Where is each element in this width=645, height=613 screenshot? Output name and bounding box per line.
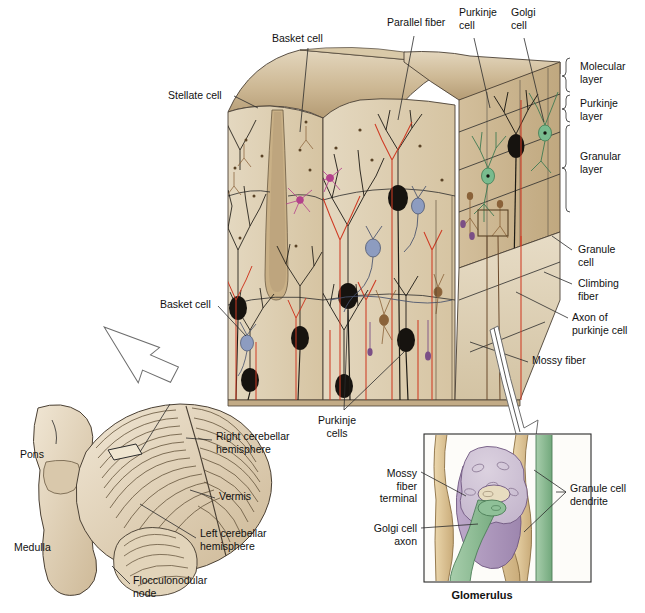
cerebellum-illustration bbox=[0, 0, 645, 613]
label-granular-layer: Granular layer bbox=[580, 150, 621, 175]
label-stellate-cell: Stellate cell bbox=[168, 89, 222, 102]
label-mossy-fiber-terminal: Mossy fiber terminal bbox=[337, 467, 417, 505]
label-golgi-cell-top: Golgi cell bbox=[511, 6, 536, 31]
purkinje-soma bbox=[229, 296, 247, 320]
label-medulla: Medulla bbox=[14, 541, 51, 554]
label-flocculonodular-node: Flocculonodular node bbox=[133, 574, 207, 599]
purkinje-soma bbox=[291, 326, 309, 350]
label-mossy-fiber: Mossy fiber bbox=[532, 354, 586, 367]
golgi-axon-cut-face bbox=[478, 500, 506, 516]
glomerulus-inset bbox=[421, 434, 591, 582]
figure-canvas: Stellate cell Basket cell Parallel fiber… bbox=[0, 0, 645, 613]
pons-bulge bbox=[43, 460, 80, 494]
cortex-face-middle bbox=[323, 99, 455, 400]
purkinje-soma bbox=[388, 185, 408, 211]
label-right-cerebellar-hemisphere: Right cerebellar hemisphere bbox=[216, 430, 290, 455]
label-granule-cell: Granule cell bbox=[578, 243, 615, 268]
cortex-block bbox=[220, 47, 560, 406]
label-left-cerebellar-hemisphere: Left cerebellar hemisphere bbox=[200, 527, 267, 552]
caption-glomerulus: Glomerulus bbox=[437, 589, 527, 602]
label-purkinje-layer: Purkinje layer bbox=[580, 97, 618, 122]
label-axon-of-purkinje-cell: Axon of purkinje cell bbox=[572, 311, 627, 336]
basket-cells-left bbox=[241, 335, 254, 351]
label-granule-cell-dendrite: Granule cell dendrite bbox=[570, 482, 626, 507]
label-golgi-cell-axon: Golgi cell axon bbox=[337, 522, 417, 547]
label-parallel-fiber: Parallel fiber bbox=[387, 16, 445, 29]
label-basket-cell-left: Basket cell bbox=[160, 298, 211, 311]
label-climbing-fiber: Climbing fiber bbox=[578, 277, 619, 302]
label-pons: Pons bbox=[20, 448, 44, 461]
label-purkinje-cells-bottom: Purkinje cells bbox=[307, 414, 367, 439]
label-molecular-layer: Molecular layer bbox=[580, 60, 626, 85]
label-basket-cell-top: Basket cell bbox=[272, 32, 323, 45]
label-vermis: Vermis bbox=[219, 490, 251, 503]
layer-brackets bbox=[562, 58, 570, 212]
block-base bbox=[228, 400, 520, 406]
zoom-arrow-up bbox=[104, 318, 180, 391]
label-purkinje-cell-top: Purkinje cell bbox=[459, 6, 497, 31]
